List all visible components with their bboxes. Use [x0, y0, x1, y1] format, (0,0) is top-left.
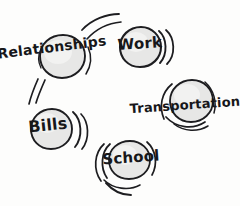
node-bills[interactable]: Bills — [27, 109, 72, 149]
motion-arc-7 — [166, 30, 173, 64]
motion-arcs-relationships-bills — [29, 79, 45, 104]
school-label: School — [102, 147, 160, 169]
motion-arcs-relationships-right — [86, 47, 90, 74]
motion-arc-3 — [86, 47, 90, 74]
motion-arcs-bills-right — [73, 112, 88, 149]
sketch-drawing: Relationships Work — [0, 0, 240, 206]
node-work[interactable]: Work — [117, 27, 163, 67]
node-transportation[interactable]: Transportation — [129, 80, 240, 122]
node-relationships[interactable]: Relationships — [0, 32, 107, 78]
motion-arc-5 — [36, 80, 45, 103]
work-label: Work — [117, 33, 163, 54]
motion-arc-12 — [73, 112, 80, 147]
motion-arc-13 — [81, 114, 88, 149]
sketch-canvas: Relationships Work — [0, 0, 240, 206]
